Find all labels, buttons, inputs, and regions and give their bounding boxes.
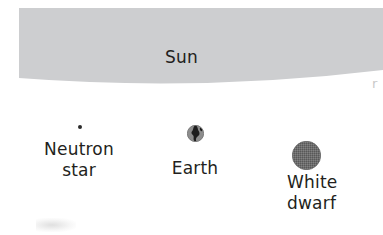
white-dwarf-label-line1: White (287, 172, 377, 193)
sun-arc-shape (19, 8, 383, 90)
white-dwarf-label-group: White dwarf (287, 172, 377, 214)
earth-globe-icon (187, 125, 204, 142)
earth-marker (187, 125, 204, 142)
astronomy-size-comparison-figure: Sun r Neutron star Earth (0, 0, 383, 235)
earth-label-group: Earth (140, 158, 250, 179)
neutron-star-label-group: Neutron star (0, 139, 158, 181)
neutron-star-label-line1: Neutron (0, 139, 158, 160)
white-dwarf-disc-icon (292, 141, 321, 170)
sun-band (19, 8, 383, 90)
white-dwarf-marker (292, 141, 321, 170)
edge-artifact-glyph: r (372, 76, 381, 88)
neutron-star-label-line2: star (0, 160, 158, 181)
earth-label-line1: Earth (140, 158, 250, 179)
neutron-star-marker (78, 125, 82, 129)
sun-label: Sun (165, 47, 198, 67)
white-dwarf-label-line2: dwarf (287, 193, 377, 214)
scan-smudge-artifact (36, 218, 76, 232)
